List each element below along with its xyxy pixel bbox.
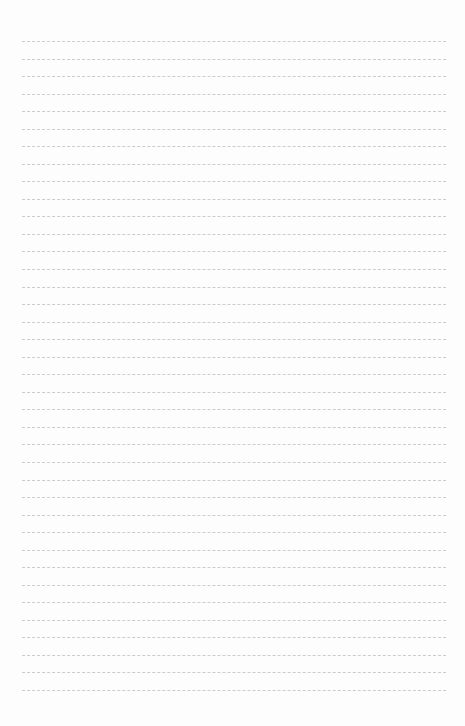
line-text[interactable] xyxy=(22,111,447,128)
line-text[interactable] xyxy=(22,322,447,339)
line-text[interactable] xyxy=(22,515,447,532)
line-text[interactable] xyxy=(22,41,447,58)
line-text[interactable] xyxy=(22,480,447,497)
line-text[interactable] xyxy=(22,181,447,198)
line-text[interactable] xyxy=(22,374,447,391)
line-text[interactable] xyxy=(22,550,447,567)
line-text[interactable] xyxy=(22,146,447,163)
line-text[interactable] xyxy=(22,59,447,76)
line-text[interactable] xyxy=(22,357,447,374)
ruled-line xyxy=(22,690,446,691)
line-text[interactable] xyxy=(22,620,447,637)
line-text[interactable] xyxy=(22,94,447,111)
line-text[interactable] xyxy=(22,164,447,181)
line-text[interactable] xyxy=(22,234,447,251)
line-text[interactable] xyxy=(22,444,447,461)
line-text[interactable] xyxy=(22,672,447,689)
line-text[interactable] xyxy=(22,567,447,584)
line-text[interactable] xyxy=(22,287,447,304)
line-text[interactable] xyxy=(22,427,447,444)
line-text[interactable] xyxy=(22,216,447,233)
line-text[interactable] xyxy=(22,409,447,426)
document-page xyxy=(0,0,465,726)
line-text[interactable] xyxy=(22,251,447,268)
line-text[interactable] xyxy=(22,637,447,654)
line-text[interactable] xyxy=(22,655,447,672)
line-text[interactable] xyxy=(22,23,447,40)
ruled-line-layer xyxy=(0,0,465,726)
line-text[interactable] xyxy=(22,76,447,93)
line-text[interactable] xyxy=(22,532,447,549)
line-text[interactable] xyxy=(22,339,447,356)
line-text[interactable] xyxy=(22,304,447,321)
line-text[interactable] xyxy=(22,497,447,514)
line-text[interactable] xyxy=(22,392,447,409)
line-text[interactable] xyxy=(22,602,447,619)
line-text[interactable] xyxy=(22,129,447,146)
line-text[interactable] xyxy=(22,269,447,286)
line-text[interactable] xyxy=(22,585,447,602)
line-text[interactable] xyxy=(22,462,447,479)
line-text[interactable] xyxy=(22,199,447,216)
